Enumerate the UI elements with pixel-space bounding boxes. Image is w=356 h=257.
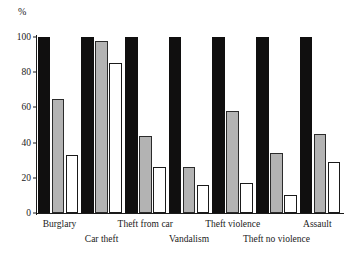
bar-group	[169, 37, 210, 213]
x-axis-category-label: Burglary	[43, 219, 77, 230]
x-axis-category-label: Theft no violence	[243, 234, 310, 245]
bar-group	[300, 37, 341, 213]
bar-series-2	[314, 134, 327, 213]
x-axis-category-label: Assault	[303, 219, 332, 230]
bar-series-3	[109, 63, 122, 213]
y-axis-unit-label: %	[18, 6, 26, 18]
bar-series-3	[328, 162, 341, 213]
bar-series-1	[212, 37, 225, 213]
y-axis-tick-mark	[33, 213, 36, 214]
plot-area: 020406080100	[36, 37, 342, 213]
bar-series-2	[270, 153, 283, 213]
y-axis-tick-mark	[33, 107, 36, 108]
bar-chart: % 020406080100 BurglaryCar theftTheft fr…	[0, 0, 356, 257]
bar-series-3	[240, 183, 253, 213]
bar-series-3	[197, 185, 210, 213]
bar-group	[212, 37, 253, 213]
y-axis-tick-mark	[33, 37, 36, 38]
y-axis-tick-mark	[33, 177, 36, 178]
bar-series-1	[125, 37, 138, 213]
bar-group	[81, 37, 122, 213]
bar-series-1	[169, 37, 182, 213]
y-axis-tick-mark	[33, 142, 36, 143]
bar-series-1	[38, 37, 51, 213]
bar-series-2	[52, 99, 65, 213]
bar-series-2	[95, 41, 108, 213]
bar-series-3	[66, 155, 79, 213]
bar-series-2	[139, 136, 152, 213]
bar-series-3	[284, 195, 297, 213]
bar-series-1	[256, 37, 269, 213]
x-axis-line	[36, 213, 344, 214]
x-axis-category-label: Theft violence	[205, 219, 260, 230]
bar-group	[38, 37, 79, 213]
bar-series-1	[81, 37, 94, 213]
bar-group	[256, 37, 297, 213]
x-axis-category-label: Theft from car	[118, 219, 173, 230]
bar-series-2	[183, 167, 196, 213]
bar-series-3	[153, 167, 166, 213]
x-axis-category-label: Vandalism	[169, 234, 209, 245]
bar-series-1	[300, 37, 313, 213]
bar-group	[125, 37, 166, 213]
bar-series-2	[226, 111, 239, 213]
y-axis-tick-mark	[33, 72, 36, 73]
x-axis-category-label: Car theft	[85, 234, 119, 245]
